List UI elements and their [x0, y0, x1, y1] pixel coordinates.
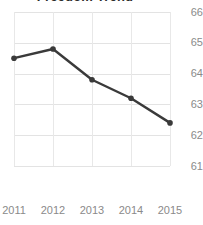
x-axis-tick-labels: 20112012201320142015 [0, 204, 203, 220]
line-chart: Freedom Trend 616263646566 2011201220132… [0, 0, 203, 225]
x-axis-tick-label: 2015 [150, 204, 190, 216]
data-point-marker[interactable] [167, 120, 173, 126]
gridline-vertical [170, 12, 171, 166]
x-axis-tick-label: 2014 [111, 204, 151, 216]
x-axis-tick-label: 2013 [72, 204, 112, 216]
series-plot [14, 12, 170, 166]
y-axis-tick-label: 64 [177, 68, 203, 79]
data-point-marker[interactable] [11, 55, 17, 61]
y-axis-tick-label: 62 [177, 130, 203, 141]
data-point-marker[interactable] [89, 77, 95, 83]
y-axis-tick-label: 63 [177, 99, 203, 110]
data-point-marker[interactable] [128, 95, 134, 101]
y-axis-tick-labels: 616263646566 [173, 0, 203, 225]
plot-area [14, 12, 170, 166]
chart-title: Freedom Trend [0, 0, 170, 4]
data-point-marker[interactable] [50, 46, 56, 52]
x-axis-tick-label: 2011 [0, 204, 34, 216]
y-axis-tick-label: 66 [177, 7, 203, 18]
gridline-horizontal [14, 166, 170, 167]
y-axis-tick-label: 65 [177, 37, 203, 48]
series-line [14, 49, 170, 123]
x-axis-tick-label: 2012 [33, 204, 73, 216]
y-axis-tick-label: 61 [177, 161, 203, 172]
